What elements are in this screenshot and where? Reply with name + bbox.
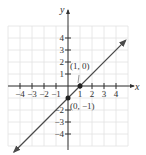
svg-text:−3: −3 (54, 117, 64, 127)
svg-text:2: 2 (90, 89, 95, 99)
svg-text:−1: −1 (51, 89, 61, 99)
graph-linear-function: −4−3−2−112344321−2−3−4 (1, 0)(0, −1) x y (0, 0, 146, 155)
svg-text:−4: −4 (15, 89, 25, 99)
svg-text:1: 1 (60, 69, 65, 79)
data-point (78, 84, 83, 89)
svg-text:3: 3 (102, 89, 107, 99)
y-axis-label: y (59, 4, 65, 15)
svg-text:4: 4 (60, 33, 65, 43)
svg-text:−4: −4 (54, 129, 64, 139)
point-label: (0, −1) (70, 101, 95, 111)
svg-text:3: 3 (60, 45, 65, 55)
axes (8, 10, 134, 150)
svg-text:1: 1 (78, 89, 83, 99)
svg-text:2: 2 (60, 57, 65, 67)
svg-text:−2: −2 (39, 89, 49, 99)
x-axis-label: x (134, 81, 140, 92)
point-label: (1, 0) (70, 61, 90, 71)
svg-text:4: 4 (114, 89, 119, 99)
svg-text:−3: −3 (27, 89, 37, 99)
data-point (66, 96, 71, 101)
